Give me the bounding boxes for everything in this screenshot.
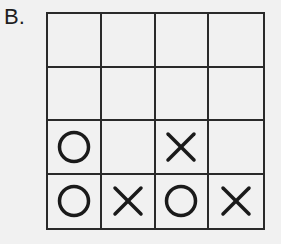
- board-cell-r0-c0: [48, 14, 102, 68]
- board-cell-r1-c1: [102, 68, 156, 122]
- board-cell-r0-c2: [156, 14, 210, 68]
- o-mark-icon: [56, 183, 92, 219]
- o-mark-icon: [56, 129, 92, 165]
- option-label: B.: [4, 4, 25, 30]
- o-mark-icon: [163, 183, 199, 219]
- board-cell-r2-c2: [156, 121, 210, 175]
- x-mark-icon: [112, 185, 144, 217]
- x-mark-icon: [220, 185, 252, 217]
- tic-tac-toe-board: [46, 12, 265, 230]
- board-cell-r1-c3: [209, 68, 263, 122]
- board-cell-r3-c2: [156, 175, 210, 229]
- board-cell-r3-c0: [48, 175, 102, 229]
- board-cell-r0-c3: [209, 14, 263, 68]
- board-cell-r2-c3: [209, 121, 263, 175]
- board-cell-r2-c1: [102, 121, 156, 175]
- board-cell-r2-c0: [48, 121, 102, 175]
- board-cell-r0-c1: [102, 14, 156, 68]
- board-cell-r3-c3: [209, 175, 263, 229]
- board-cell-r1-c2: [156, 68, 210, 122]
- x-mark-icon: [165, 131, 197, 163]
- board-cell-r1-c0: [48, 68, 102, 122]
- board-cell-r3-c1: [102, 175, 156, 229]
